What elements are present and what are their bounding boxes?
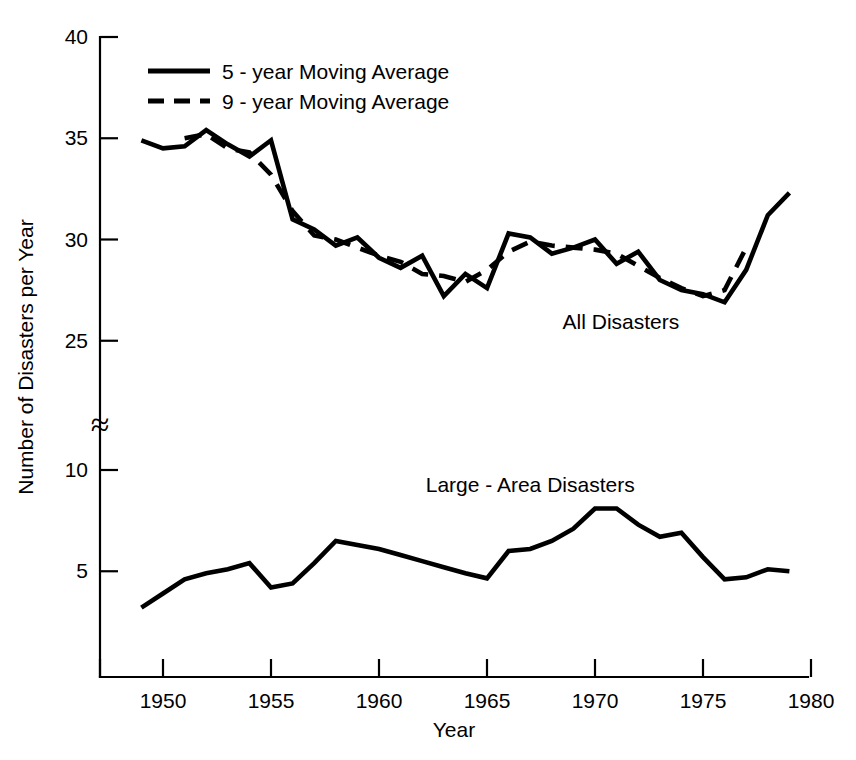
x-tick-label-1975: 1975 xyxy=(680,689,727,712)
x-tick-label-1950: 1950 xyxy=(140,689,187,712)
y-tick-label-25: 25 xyxy=(65,329,88,352)
x-axis-ticks xyxy=(100,659,811,677)
x-tick-label-1980: 1980 xyxy=(788,689,835,712)
x-tick-label-1955: 1955 xyxy=(248,689,295,712)
y-tick-label-40: 40 xyxy=(65,25,88,48)
y-tick-label-5: 5 xyxy=(76,559,88,582)
data-series-group xyxy=(141,130,789,608)
x-axis-tick-labels: 1950195519601965197019751980 xyxy=(140,689,835,712)
annotation-1: Large - Area Disasters xyxy=(426,473,635,496)
y-tick-label-10: 10 xyxy=(65,458,88,481)
legend-label-0: 5 - year Moving Average xyxy=(222,60,449,83)
x-tick-label-1970: 1970 xyxy=(572,689,619,712)
series-line-0 xyxy=(141,130,789,302)
y-axis-ticks xyxy=(100,37,118,571)
legend-label-1: 9 - year Moving Average xyxy=(222,90,449,113)
chart-figure: 25303540510 1950195519601965197019751980… xyxy=(0,0,856,760)
legend: 5 - year Moving Average9 - year Moving A… xyxy=(148,60,449,113)
annotation-0: All Disasters xyxy=(563,310,680,333)
y-axis-title: Number of Disasters per Year xyxy=(14,219,37,494)
x-axis-title: Year xyxy=(433,718,475,741)
y-tick-label-30: 30 xyxy=(65,228,88,251)
y-axis-tick-labels: 25303540510 xyxy=(65,25,88,582)
x-tick-label-1960: 1960 xyxy=(356,689,403,712)
chart-canvas: 25303540510 1950195519601965197019751980… xyxy=(0,0,856,760)
series-line-2 xyxy=(141,508,789,607)
x-tick-label-1965: 1965 xyxy=(464,689,511,712)
y-axis-break-icon: ≈ xyxy=(91,406,110,443)
series-annotations: All DisastersLarge - Area Disasters xyxy=(426,310,680,497)
y-tick-label-35: 35 xyxy=(65,126,88,149)
